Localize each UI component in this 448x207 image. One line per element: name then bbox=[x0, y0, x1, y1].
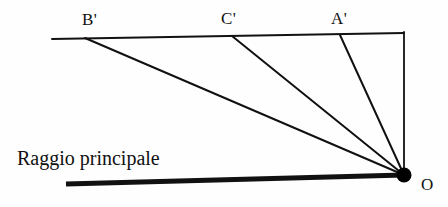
figure-canvas: B' C' A' O Raggio principale bbox=[0, 0, 448, 207]
vertex-point-o bbox=[397, 168, 412, 183]
ray-to-a-prime bbox=[340, 35, 404, 175]
image-plane-line bbox=[52, 33, 404, 39]
label-a-prime: A' bbox=[331, 10, 347, 27]
caption-raggio-principale: Raggio principale bbox=[17, 148, 160, 168]
diagram-svg bbox=[0, 0, 448, 207]
ray-to-c-prime bbox=[232, 36, 404, 175]
label-b-prime: B' bbox=[82, 11, 97, 28]
label-c-prime: C' bbox=[221, 10, 236, 27]
principal-ray-thick-line bbox=[66, 175, 404, 184]
label-o: O bbox=[421, 176, 434, 193]
